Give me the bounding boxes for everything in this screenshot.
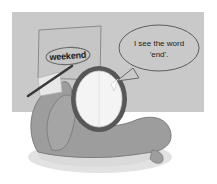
- speech-bubble-body: [119, 25, 199, 71]
- illustration-canvas: weekend I see the word 'end'.: [0, 0, 217, 184]
- speech-bubble-line-1: I see the word: [134, 39, 184, 48]
- illustration-scene: weekend I see the word 'end'.: [0, 0, 217, 184]
- speech-bubble-line-2: 'end'.: [150, 50, 169, 59]
- hand-mirror: [71, 66, 127, 132]
